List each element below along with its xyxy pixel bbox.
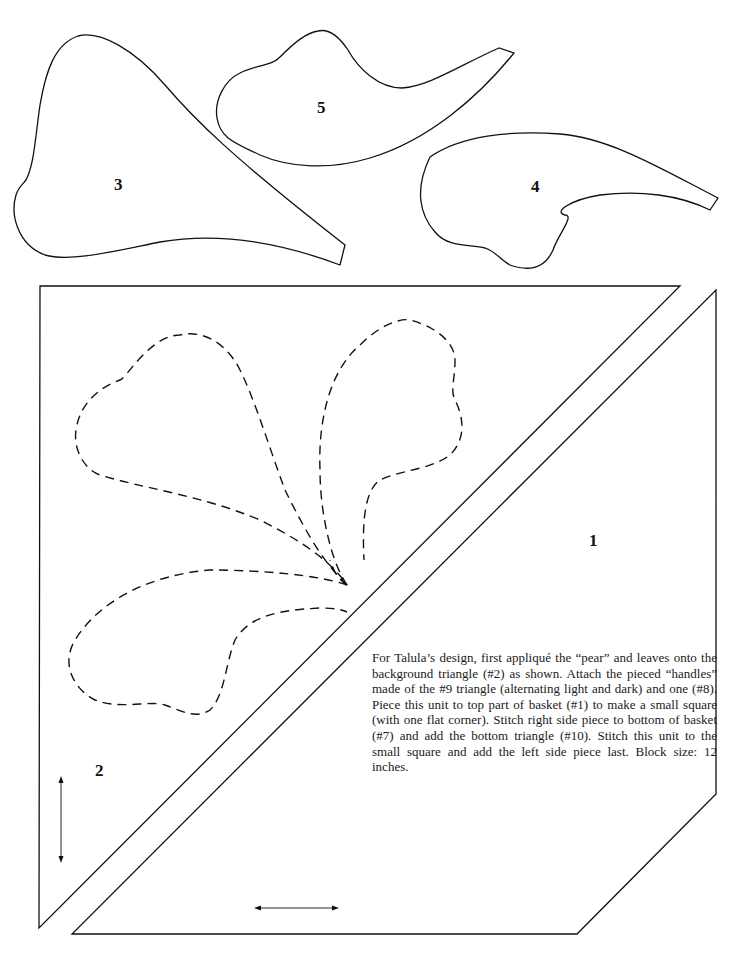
assembly-instructions: For Talula’s design, first appliqué the … [372,650,717,775]
piece-label-1: 1 [589,531,598,550]
piece-label-2: 2 [95,761,104,780]
grain-horizontal-arrow [254,906,339,911]
quilt-pattern-diagram: 3 5 4 2 1 [0,0,753,961]
piece-2-background-triangle: 2 [39,286,680,928]
piece-label-3: 3 [114,175,123,194]
piece-3-pear: 3 [14,35,345,265]
grain-vertical-arrow [59,776,64,863]
piece-4-leaf: 4 [421,133,718,268]
piece-label-4: 4 [531,177,540,196]
piece-5-leaf: 5 [217,30,514,166]
piece-label-5: 5 [317,98,326,117]
piece-1-basket-top: 1 [72,290,716,934]
